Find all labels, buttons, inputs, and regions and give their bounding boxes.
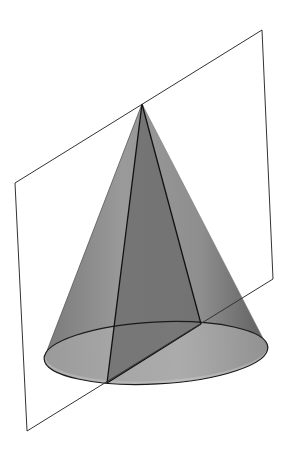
cone-plane-diagram [0,0,295,464]
diagram-canvas [0,0,295,464]
